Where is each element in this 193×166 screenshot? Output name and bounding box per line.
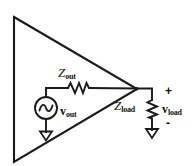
label-v-load-subscript: load [168, 108, 182, 117]
label-z-out: Zout [58, 64, 76, 81]
label-v-out-subscript: out [66, 110, 77, 119]
wire-resistor-to-apex [90, 88, 137, 89]
label-z-out-subscript: out [65, 72, 76, 81]
label-z-load: Zload [114, 97, 135, 114]
label-v-out: vout [60, 102, 77, 119]
label-v-load: vload [162, 100, 182, 117]
circuit-diagram-canvas: Zout vout Zload vload + - [0, 0, 193, 166]
load-impedance-resistor [148, 100, 158, 119]
polarity-plus-sign: + [165, 85, 172, 97]
label-z-load-subscript: load [121, 105, 135, 114]
wire-source-to-resistor [46, 88, 68, 97]
wire-apex-to-load [137, 89, 153, 101]
schematic-drawing [0, 0, 193, 166]
polarity-minus-sign: - [166, 117, 170, 129]
sine-wave-icon [40, 105, 53, 111]
output-impedance-resistor [68, 83, 90, 93]
